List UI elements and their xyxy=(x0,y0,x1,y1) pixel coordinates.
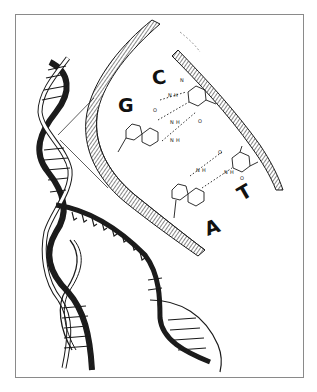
svg-text:O: O xyxy=(198,118,202,124)
label-t: T xyxy=(233,179,255,205)
dna-illustration: N NH O NH O NH O NH NH O xyxy=(0,0,317,392)
svg-text:N: N xyxy=(180,77,184,83)
label-a: A xyxy=(201,214,223,240)
magnified-backbone-right xyxy=(172,32,283,190)
base-letter-labels: G C A T xyxy=(118,65,255,240)
svg-text:N: N xyxy=(168,92,172,98)
label-g: G xyxy=(118,94,134,116)
svg-text:N: N xyxy=(170,137,174,143)
svg-text:N: N xyxy=(170,119,174,125)
svg-text:N: N xyxy=(196,167,200,173)
svg-text:N: N xyxy=(224,169,228,175)
svg-text:H: H xyxy=(176,119,180,125)
svg-text:O: O xyxy=(218,149,222,155)
svg-text:H: H xyxy=(202,167,206,173)
label-c: C xyxy=(150,65,168,89)
svg-text:H: H xyxy=(230,169,234,175)
atom-labels: N NH O NH O NH O NH NH O xyxy=(153,77,244,181)
svg-text:O: O xyxy=(153,107,157,113)
svg-text:H: H xyxy=(176,137,180,143)
svg-text:H: H xyxy=(174,92,178,98)
